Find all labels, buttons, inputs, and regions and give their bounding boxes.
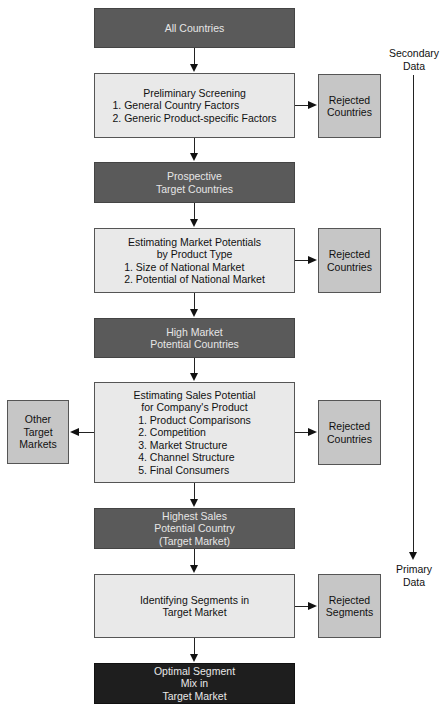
- preliminary-item: 1. General Country Factors: [113, 99, 277, 112]
- rejected-label: Rejected: [329, 420, 370, 433]
- connector: [295, 606, 309, 607]
- connector: [78, 432, 94, 433]
- market-potentials-box: Estimating Market Potentials by Product …: [94, 228, 295, 293]
- other-target-markets-box: Other Target Markets: [7, 400, 69, 464]
- connector: [194, 638, 195, 655]
- primary-label-text: Data: [388, 576, 440, 589]
- optimal-segment-mix-box: Optimal Segment Mix in Target Market: [94, 663, 295, 704]
- other-markets-label: Target: [23, 426, 52, 439]
- all-countries-label: All Countries: [165, 22, 225, 35]
- high-market-label: Potential Countries: [150, 338, 239, 351]
- connector: [194, 483, 195, 500]
- sales-potential-item: 1. Product Comparisons: [138, 414, 251, 427]
- market-potentials-title: Estimating Market Potentials: [128, 236, 261, 249]
- connector: [194, 48, 195, 65]
- other-markets-label: Other: [25, 413, 51, 426]
- high-market-potential-box: High Market Potential Countries: [94, 318, 295, 358]
- rejected-countries-box: Rejected Countries: [318, 228, 381, 293]
- sales-potential-item: 5. Final Consumers: [138, 464, 251, 477]
- identifying-label: Target Market: [162, 606, 226, 619]
- arrow-down-icon: [190, 153, 198, 161]
- primary-label-text: Primary: [388, 563, 440, 576]
- connector: [194, 203, 195, 220]
- secondary-data-label: Secondary Data: [388, 47, 440, 72]
- arrow-down-icon: [190, 219, 198, 227]
- sales-potential-box: Estimating Sales Potential for Company's…: [94, 382, 295, 483]
- optimal-label: Optimal Segment: [154, 665, 235, 678]
- rejected-countries-box: Rejected Countries: [318, 400, 381, 465]
- rejected-label: Rejected: [329, 94, 370, 107]
- arrow-right-icon: [308, 101, 317, 109]
- arrow-down-icon: [409, 552, 417, 560]
- high-market-label: High Market: [166, 326, 223, 339]
- rejected-countries-box: Rejected Countries: [318, 74, 381, 138]
- prospective-label: Target Countries: [156, 183, 233, 196]
- highest-sales-potential-box: Highest Sales Potential Country (Target …: [94, 508, 295, 549]
- arrow-right-icon: [308, 256, 317, 264]
- arrow-down-icon: [190, 64, 198, 72]
- sales-potential-item: 3. Market Structure: [138, 439, 251, 452]
- rejected-label: Countries: [327, 261, 372, 274]
- market-potentials-title: by Product Type: [157, 248, 233, 261]
- arrow-right-icon: [308, 602, 317, 610]
- arrow-down-icon: [190, 565, 198, 573]
- arrow-down-icon: [190, 373, 198, 381]
- identifying-segments-box: Identifying Segments in Target Market: [94, 574, 295, 638]
- arrow-down-icon: [190, 309, 198, 317]
- all-countries-box: All Countries: [94, 8, 295, 48]
- preliminary-item: 2. Generic Product-specific Factors: [113, 112, 277, 125]
- arrow-down-icon: [190, 499, 198, 507]
- identifying-label: Identifying Segments in: [140, 594, 249, 607]
- rejected-label: Countries: [327, 106, 372, 119]
- sales-potential-item: 2. Competition: [138, 426, 251, 439]
- highest-sales-label: (Target Market): [159, 535, 230, 548]
- connector: [295, 105, 309, 106]
- connector: [194, 549, 195, 566]
- optimal-label: Target Market: [162, 690, 226, 703]
- optimal-label: Mix in: [181, 677, 208, 690]
- connector: [295, 260, 309, 261]
- market-potentials-item: 2. Potential of National Market: [124, 273, 265, 286]
- connector: [194, 358, 195, 374]
- prospective-label: Prospective: [167, 170, 222, 183]
- highest-sales-label: Potential Country: [154, 522, 235, 535]
- preliminary-title: Preliminary Screening: [143, 87, 246, 100]
- connector: [295, 432, 309, 433]
- rejected-label: Rejected: [329, 594, 370, 607]
- connector: [194, 138, 195, 154]
- data-axis-line: [413, 75, 414, 555]
- market-potentials-item: 1. Size of National Market: [124, 261, 265, 274]
- arrow-down-icon: [190, 654, 198, 662]
- rejected-segments-box: Rejected Segments: [318, 574, 381, 638]
- prospective-target-countries-box: Prospective Target Countries: [94, 162, 295, 203]
- secondary-label-text: Secondary: [388, 47, 440, 60]
- arrow-right-icon: [308, 428, 317, 436]
- rejected-label: Rejected: [329, 248, 370, 261]
- secondary-label-text: Data: [388, 60, 440, 73]
- sales-potential-title: for Company's Product: [141, 401, 247, 414]
- rejected-label: Countries: [327, 433, 372, 446]
- rejected-label: Segments: [326, 606, 373, 619]
- highest-sales-label: Highest Sales: [162, 510, 227, 523]
- arrow-left-icon: [70, 428, 79, 436]
- sales-potential-item: 4. Channel Structure: [138, 451, 251, 464]
- preliminary-screening-box: Preliminary Screening 1. General Country…: [94, 73, 295, 138]
- primary-data-label: Primary Data: [388, 563, 440, 588]
- sales-potential-title: Estimating Sales Potential: [134, 389, 256, 402]
- connector: [194, 293, 195, 310]
- other-markets-label: Markets: [19, 438, 56, 451]
